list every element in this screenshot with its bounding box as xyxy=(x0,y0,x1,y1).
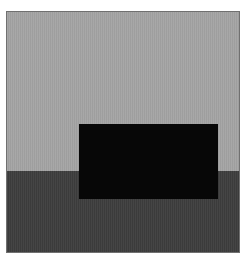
image-canvas xyxy=(0,0,244,261)
black-rectangle xyxy=(79,124,218,199)
image-frame xyxy=(6,11,240,253)
